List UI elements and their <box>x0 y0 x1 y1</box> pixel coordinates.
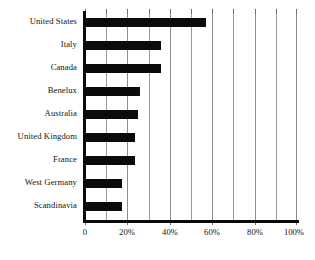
bar-australia <box>85 110 138 119</box>
x-tick-label: 60% <box>204 226 220 238</box>
x-tick-label: 0 <box>83 226 87 238</box>
category-label: Canada <box>0 62 77 72</box>
bar-france <box>85 156 135 165</box>
bar-west-germany <box>85 179 122 188</box>
bar-canada <box>85 64 161 73</box>
bar-united-states <box>85 18 206 27</box>
gridline-40 <box>170 13 171 221</box>
tick-top-80 <box>255 9 256 14</box>
x-tick-label: 80% <box>247 226 263 238</box>
x-axis-spine <box>83 220 299 223</box>
tick-top-30 <box>149 9 150 14</box>
x-tick-label: 100% <box>284 226 304 238</box>
y-axis-spine <box>83 11 86 223</box>
bar-benelux <box>85 87 140 96</box>
category-label: Italy <box>0 39 77 49</box>
plot-area <box>85 13 297 221</box>
bar-united-kingdom <box>85 133 135 142</box>
gridline-50 <box>191 13 192 221</box>
tick-top-20 <box>127 9 128 14</box>
tick-top-50 <box>191 9 192 14</box>
tick-top-10 <box>106 9 107 14</box>
gridline-100 <box>296 13 297 221</box>
category-label: United Kingdom <box>0 131 77 141</box>
tick-top-100 <box>296 9 297 14</box>
gridline-60 <box>212 13 213 221</box>
x-tick-label: 40% <box>162 226 178 238</box>
bar-scandinavia <box>85 202 122 211</box>
tick-top-90 <box>276 9 277 14</box>
tick-top-70 <box>233 9 234 14</box>
gridline-80 <box>255 13 256 221</box>
category-label: United States <box>0 16 77 26</box>
bar-italy <box>85 41 161 50</box>
category-label: Benelux <box>0 85 77 95</box>
tick-top-60 <box>212 9 213 14</box>
category-label: France <box>0 154 77 164</box>
x-tick-label: 20% <box>119 226 135 238</box>
tick-top-40 <box>170 9 171 14</box>
category-label: Australia <box>0 108 77 118</box>
bar-chart: United States Italy Canada Benelux Austr… <box>0 0 315 260</box>
gridline-70 <box>233 13 234 221</box>
category-axis-labels: United States Italy Canada Benelux Austr… <box>0 14 80 221</box>
gridline-90 <box>276 13 277 221</box>
category-label: West Germany <box>0 177 77 187</box>
category-label: Scandinavia <box>0 200 77 210</box>
x-axis-tick-labels: 0 20% 40% 60% 80% 100% <box>85 226 297 244</box>
